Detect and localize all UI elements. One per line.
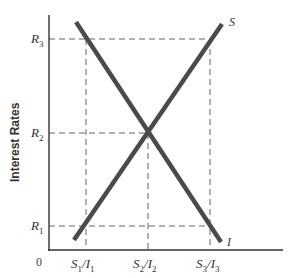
investment-curve-label: I xyxy=(227,236,231,248)
y-tick-r1: R1 xyxy=(31,219,43,236)
chart-canvas xyxy=(0,0,295,278)
guide-lines xyxy=(49,39,210,250)
y-tick-r3: R3 xyxy=(31,32,43,49)
origin-label: 0 xyxy=(36,255,42,270)
x-tick-1: S1/I1 xyxy=(71,257,94,274)
x-tick-2: S2/I2 xyxy=(133,257,156,274)
saving-curve-label: S xyxy=(229,16,235,28)
x-tick-3: S3/I3 xyxy=(196,257,219,274)
y-tick-r2: R2 xyxy=(31,126,43,143)
y-axis-title: Interest Rates xyxy=(8,103,22,182)
